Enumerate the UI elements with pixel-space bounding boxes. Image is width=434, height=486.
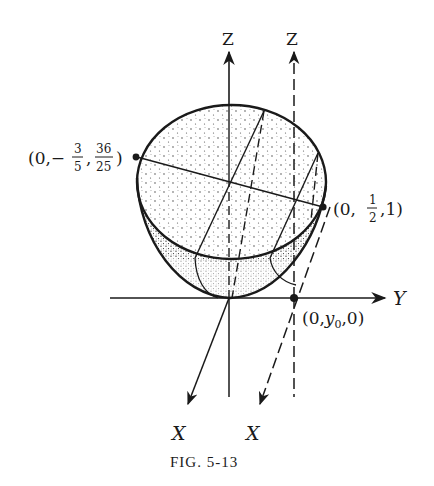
z-axis-label: Z (222, 29, 234, 49)
svg-text:1: 1 (369, 193, 377, 207)
svg-text:36: 36 (96, 142, 111, 156)
label-right-point: (0, 1 2 ,1) (333, 193, 403, 225)
label-left-point: (0,− 3 5 , 36 25 ) (28, 142, 123, 174)
svg-text:(0,y0,0): (0,y0,0) (302, 308, 364, 331)
svg-text:): ) (116, 148, 123, 168)
svg-text:(0,: (0, (333, 199, 356, 219)
svg-text:5: 5 (74, 160, 82, 174)
x-axis (188, 298, 229, 404)
svg-text:(0,−: (0,− (28, 148, 65, 168)
y-axis-label: Y (393, 287, 408, 309)
x-axis-label: X (170, 422, 187, 444)
point-left-top (133, 154, 140, 161)
point-base (290, 294, 298, 302)
z-shifted-axis-label: Z (286, 29, 298, 49)
label-base-point: (0,y0,0) (302, 308, 364, 331)
svg-text:25: 25 (96, 160, 111, 174)
svg-text:,: , (86, 148, 91, 168)
svg-text:,1): ,1) (380, 199, 403, 219)
svg-text:3: 3 (74, 142, 82, 156)
figure-caption: FIG. 5-13 (170, 454, 238, 470)
paraboloid-figure: Z Z Y X X (0,− 3 5 , 36 25 ) (0, 1 2 ,1) (0, 0, 434, 486)
point-right-top (319, 203, 326, 210)
svg-text:2: 2 (369, 211, 377, 225)
x-shifted-axis-label: X (244, 422, 261, 444)
